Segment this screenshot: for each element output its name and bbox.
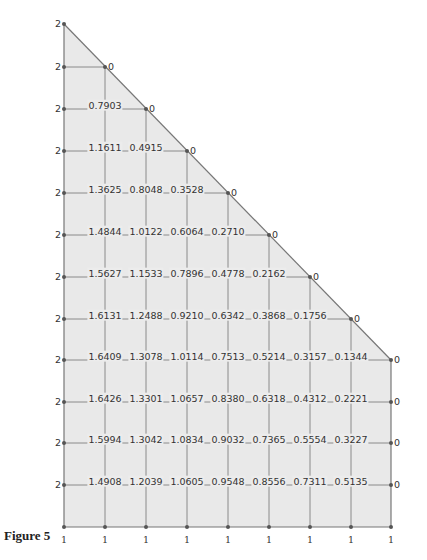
figure-caption: Figure 5	[4, 528, 50, 544]
left-boundary-value: 2	[55, 187, 64, 198]
interior-node-value: 0.3227	[333, 434, 368, 445]
boundary-node	[267, 525, 271, 529]
interior-node-value: 0.9210	[169, 310, 204, 321]
interior-node-value: 1.1611	[87, 142, 122, 153]
interior-node-value: 0.5214	[251, 351, 286, 362]
interior-node-value: 1.2488	[128, 310, 163, 321]
interior-node-value: 1.4908	[87, 476, 122, 487]
right-boundary-value: 0	[391, 396, 400, 407]
interior-node-value: 0.3157	[292, 351, 327, 362]
diagonal-boundary-value: 0	[146, 103, 155, 114]
interior-node-value: 0.5554	[292, 434, 327, 445]
interior-node-value: 0.2162	[251, 268, 286, 279]
bottom-boundary-value: 1	[307, 531, 313, 545]
interior-node-value: 0.1344	[333, 351, 368, 362]
left-boundary-value: 2	[55, 313, 64, 324]
interior-node-value: 1.3625	[87, 184, 122, 195]
diagonal-boundary-value: 0	[310, 271, 319, 282]
boundary-node	[62, 525, 66, 529]
diagonal-boundary-value: 0	[105, 61, 114, 72]
finite-difference-grid-figure: 222222222222000000000001111111110.79031.…	[0, 0, 427, 560]
interior-node-value: 0.2710	[210, 226, 245, 237]
boundary-node	[308, 525, 312, 529]
interior-node-value: 0.4778	[210, 268, 245, 279]
interior-node-value: 0.7903	[87, 100, 122, 111]
left-boundary-value: 2	[55, 437, 64, 448]
interior-node-value: 1.5627	[87, 268, 122, 279]
interior-node-value: 0.8048	[128, 184, 163, 195]
interior-node-value: 0.9548	[210, 476, 245, 487]
bottom-boundary-value: 1	[184, 531, 190, 545]
interior-node-value: 1.3042	[128, 434, 163, 445]
interior-node-value: 0.4915	[128, 142, 163, 153]
left-boundary-value: 2	[55, 479, 64, 490]
interior-node-value: 1.1533	[128, 268, 163, 279]
diagonal-boundary-value: 0	[391, 354, 400, 365]
bottom-boundary-value: 1	[61, 531, 67, 545]
left-boundary-value: 2	[55, 145, 64, 156]
interior-node-value: 1.0605	[169, 476, 204, 487]
interior-node-value: 1.3301	[128, 393, 163, 404]
boundary-node	[226, 525, 230, 529]
interior-node-value: 1.6426	[87, 393, 122, 404]
interior-node-value: 1.0114	[169, 351, 204, 362]
interior-node-value: 1.0834	[169, 434, 204, 445]
bottom-boundary-value: 1	[143, 531, 149, 545]
right-boundary-value: 0	[391, 479, 400, 490]
interior-node-value: 0.3528	[169, 184, 204, 195]
interior-node-value: 0.7513	[210, 351, 245, 362]
interior-node-value: 1.2039	[128, 476, 163, 487]
interior-node-value: 0.8556	[251, 476, 286, 487]
boundary-node	[185, 525, 189, 529]
bottom-boundary-value: 1	[348, 531, 354, 545]
interior-node-value: 1.4844	[87, 226, 122, 237]
interior-node-value: 0.8380	[210, 393, 245, 404]
interior-node-value: 1.6409	[87, 351, 122, 362]
interior-node-value: 1.3078	[128, 351, 163, 362]
bottom-boundary-value: 1	[102, 531, 108, 545]
interior-node-value: 0.9032	[210, 434, 245, 445]
diagonal-boundary-value: 0	[228, 187, 237, 198]
boundary-node	[144, 525, 148, 529]
interior-node-value: 0.6342	[210, 310, 245, 321]
diagonal-boundary-value: 0	[351, 313, 360, 324]
left-boundary-value: 2	[55, 354, 64, 365]
bottom-boundary-value: 1	[225, 531, 231, 545]
boundary-node	[389, 525, 393, 529]
interior-node-value: 1.0122	[128, 226, 163, 237]
left-boundary-value: 2	[55, 61, 64, 72]
left-boundary-value: 2	[55, 103, 64, 114]
interior-node-value: 0.6318	[251, 393, 286, 404]
interior-node-value: 0.7896	[169, 268, 204, 279]
diagonal-boundary-value: 0	[187, 145, 196, 156]
boundary-node	[103, 525, 107, 529]
left-boundary-value: 2	[55, 396, 64, 407]
interior-node-value: 0.3868	[251, 310, 286, 321]
interior-node-value: 0.4312	[292, 393, 327, 404]
interior-node-value: 1.6131	[87, 310, 122, 321]
left-boundary-value: 2	[55, 229, 64, 240]
left-boundary-value: 2	[55, 18, 64, 29]
bottom-boundary-value: 1	[388, 531, 394, 545]
diagonal-boundary-value: 0	[269, 229, 278, 240]
boundary-node	[349, 525, 353, 529]
interior-node-value: 0.7365	[251, 434, 286, 445]
interior-node-value: 0.2221	[333, 393, 368, 404]
right-boundary-value: 0	[391, 437, 400, 448]
interior-node-value: 0.1756	[292, 310, 327, 321]
interior-node-value: 1.5994	[87, 434, 122, 445]
interior-node-value: 0.7311	[292, 476, 327, 487]
interior-node-value: 0.6064	[169, 226, 204, 237]
bottom-boundary-value: 1	[266, 531, 272, 545]
interior-node-value: 1.0657	[169, 393, 204, 404]
interior-node-value: 0.5135	[333, 476, 368, 487]
left-boundary-value: 2	[55, 271, 64, 282]
